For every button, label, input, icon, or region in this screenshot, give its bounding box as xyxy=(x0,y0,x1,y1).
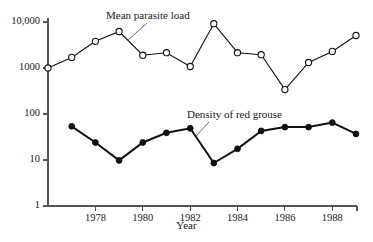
annotation-leader-line xyxy=(127,23,147,41)
chart-canvas xyxy=(0,0,373,242)
series-grouse-density xyxy=(69,120,359,166)
data-point xyxy=(69,123,75,129)
data-point xyxy=(164,130,170,136)
data-point xyxy=(140,140,146,146)
data-point xyxy=(306,124,312,130)
data-point xyxy=(140,52,146,58)
data-point xyxy=(258,128,264,134)
data-point xyxy=(92,38,98,44)
data-point xyxy=(93,140,99,146)
data-point xyxy=(163,50,169,56)
y-axis-tick-label: 10 xyxy=(30,154,41,165)
data-point xyxy=(282,87,288,93)
data-point xyxy=(282,124,288,130)
y-axis-tick-label: 1 xyxy=(35,200,40,211)
data-point xyxy=(187,63,193,69)
annotation-leader-line xyxy=(196,122,209,136)
data-point xyxy=(329,48,335,54)
data-point xyxy=(211,21,217,27)
data-point xyxy=(187,125,193,131)
series-polyline xyxy=(48,24,356,90)
x-axis-title: Year xyxy=(0,219,373,231)
data-point xyxy=(116,28,122,34)
data-point xyxy=(69,54,75,60)
data-point xyxy=(329,120,335,126)
data-point xyxy=(235,146,241,152)
data-point xyxy=(45,65,51,71)
data-point xyxy=(258,52,264,58)
y-axis-tick-label: 100 xyxy=(24,108,40,119)
series-parasite-load xyxy=(45,21,359,93)
data-point xyxy=(116,158,122,164)
data-point xyxy=(234,50,240,56)
series-annotation-label: Mean parasite load xyxy=(106,9,190,21)
y-axis-tick-label: 10,000 xyxy=(11,16,40,27)
data-point xyxy=(353,131,359,137)
series-annotation-label: Density of red grouse xyxy=(187,108,282,120)
data-series xyxy=(45,21,359,166)
series-polyline xyxy=(72,123,356,163)
data-point xyxy=(353,32,359,38)
data-point xyxy=(306,59,312,65)
data-point xyxy=(211,160,217,166)
y-axis-tick-label: 1000 xyxy=(19,62,40,73)
chart-figure: 10,0001000100101 19781980198219841986198… xyxy=(0,0,373,242)
